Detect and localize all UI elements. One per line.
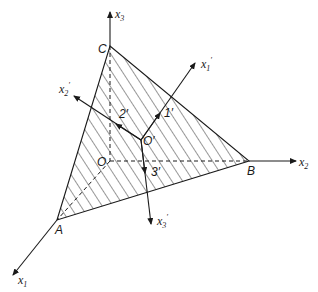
point-a-label: A bbox=[54, 223, 63, 237]
point-c-label: C bbox=[98, 42, 107, 56]
unit-vector-2-label: 2′ bbox=[118, 107, 129, 121]
x2-prime-label: x2′ bbox=[58, 81, 70, 98]
point-o-label: O bbox=[97, 155, 106, 169]
x1-prime-label: x1′ bbox=[200, 56, 212, 73]
x1-axis bbox=[13, 220, 57, 275]
x1-label: x1 bbox=[17, 273, 27, 289]
unit-vector-1-label: 1′ bbox=[164, 106, 174, 120]
x2-label: x2 bbox=[298, 155, 308, 171]
unit-vector-3-label: 3′ bbox=[151, 165, 161, 179]
plane-abc bbox=[57, 46, 249, 220]
coordinate-diagram: x3 x2 x1 x1′ x2′ x3′ A B C O O′ 1′ 2′ 3′ bbox=[0, 0, 318, 292]
point-o-prime-label: O′ bbox=[143, 134, 155, 148]
point-b-label: B bbox=[247, 164, 255, 178]
x3-prime-label: x3′ bbox=[156, 213, 168, 230]
x3-label: x3 bbox=[114, 7, 124, 23]
